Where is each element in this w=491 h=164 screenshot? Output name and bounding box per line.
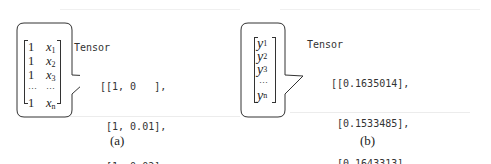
- vector-row: y3: [257, 63, 268, 76]
- panel-a: 1x1 1x2 1x3 ⋯⋯ 1xn Tensor [[1, 0 ], [1, …: [0, 0, 245, 164]
- vector-row: yn: [257, 89, 268, 102]
- matrix-row: 1x1: [28, 40, 56, 54]
- tensor-label: Tensor: [307, 38, 409, 51]
- matrix-row: 1x3: [28, 68, 56, 82]
- matrix-bracket-right: [57, 40, 61, 104]
- code-underline: [290, 112, 470, 113]
- tensor-line: [1, 0.02],: [100, 160, 166, 164]
- tensor-line: [[0.1635014],: [331, 77, 409, 90]
- matrix-row: ⋯⋯: [28, 82, 56, 96]
- target-vector-y: y1 y2 y3 ⋯ yn: [257, 37, 268, 102]
- tensor-line: [1, 0.01],: [100, 120, 166, 133]
- matrix-row: 1x2: [28, 54, 56, 68]
- vector-bracket-right: [272, 37, 276, 103]
- tensor-line: [0.1533485],: [331, 117, 409, 130]
- caption-b: (b): [360, 133, 375, 149]
- tensor-line: [[1, 0 ],: [100, 80, 166, 93]
- design-matrix-x: 1x1 1x2 1x3 ⋯⋯ 1xn: [28, 40, 56, 110]
- panel-b: y1 y2 y3 ⋯ yn Tensor [[0.1635014], [0.15…: [245, 0, 491, 164]
- code-underline: [70, 116, 240, 117]
- matrix-row: 1xn: [28, 96, 56, 110]
- caption-a: (a): [110, 133, 124, 149]
- tensor-line: [0.1643313],: [331, 157, 409, 164]
- tensor-label: Tensor: [74, 41, 166, 54]
